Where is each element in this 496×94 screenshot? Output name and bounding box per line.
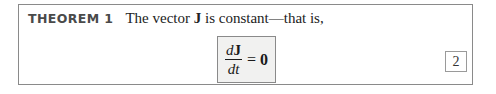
theorem-label: THEOREM 1 bbox=[28, 11, 113, 26]
theorem-heading-line: THEOREM 1 The vector J is constant—that … bbox=[28, 10, 324, 27]
theorem-text-before: The vector bbox=[125, 10, 193, 26]
derivative-fraction: dJ dt bbox=[225, 42, 242, 77]
theorem-box: THEOREM 1 The vector J is constant—that … bbox=[18, 4, 473, 85]
theorem-statement: The vector J is constant—that is, bbox=[125, 10, 323, 27]
theorem-text-after: is constant—that is, bbox=[201, 10, 324, 26]
equals-sign: = bbox=[247, 51, 256, 69]
zero-vector: 0 bbox=[260, 51, 268, 69]
equation-box: dJ dt = 0 bbox=[217, 36, 276, 83]
denominator-dt: dt bbox=[228, 61, 240, 77]
fraction-denominator: dt bbox=[227, 61, 241, 77]
fraction-bar bbox=[225, 59, 242, 60]
fraction-numerator: dJ bbox=[225, 42, 242, 58]
numerator-symbol: J bbox=[233, 42, 241, 58]
equation-number: 2 bbox=[445, 51, 467, 72]
